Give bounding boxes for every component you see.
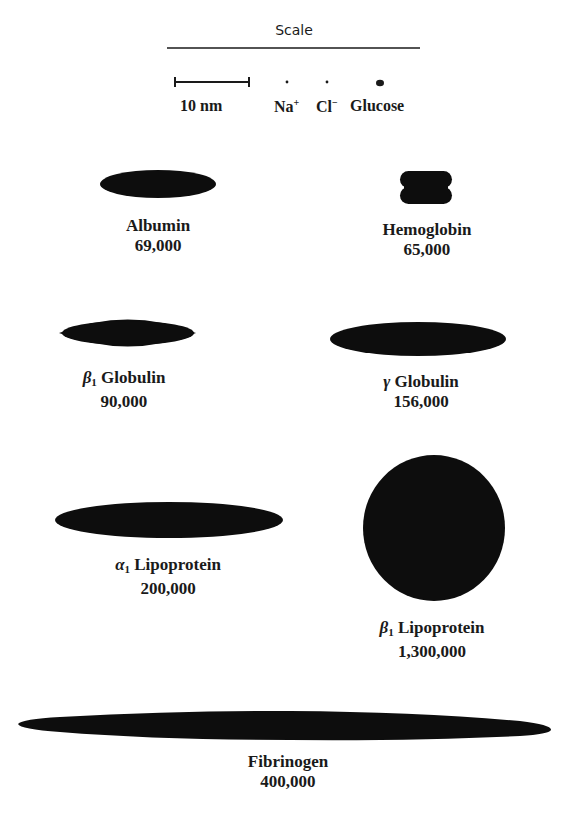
beta1-lipoprotein-shape-icon	[363, 455, 505, 601]
alpha1-lipoprotein-label: α1 Lipoprotein 200,000	[115, 555, 221, 599]
albumin-label: Albumin 69,000	[126, 216, 190, 256]
beta1-globulin-mw: 90,000	[83, 392, 166, 412]
scale-bar-icon	[175, 77, 249, 87]
plasma-protein-size-diagram: Scale 10 nm Na+ Cl− Glucose Albumin 69,0…	[0, 0, 573, 822]
na-ion-label: Na+	[274, 97, 299, 116]
alpha1-lipoprotein-title: α1 Lipoprotein	[115, 555, 221, 579]
cl-ion-charge: −	[332, 97, 338, 108]
beta-symbol: β	[379, 618, 388, 637]
subscript: 1	[125, 563, 131, 575]
alpha1-lipoprotein-shape-icon	[55, 502, 283, 538]
gamma-globulin-title: γ Globulin	[383, 372, 459, 392]
cl-ion-dot-icon	[326, 81, 329, 84]
hemoglobin-label: Hemoglobin 65,000	[383, 220, 472, 260]
fibrinogen-shape-icon	[18, 711, 551, 740]
alpha-symbol: α	[115, 555, 124, 574]
albumin-mw: 69,000	[126, 236, 190, 256]
cl-ion-label: Cl−	[316, 97, 338, 116]
scale-bar-label: 10 nm	[180, 97, 222, 115]
gamma-globulin-name: Globulin	[395, 372, 459, 391]
beta1-lipoprotein-label: β1 Lipoprotein 1,300,000	[379, 618, 484, 662]
gamma-globulin-mw: 156,000	[383, 392, 459, 412]
gamma-globulin-label: γ Globulin 156,000	[383, 372, 459, 412]
beta-symbol: β	[83, 368, 92, 387]
beta1-globulin-label: β1 Globulin 90,000	[83, 368, 166, 412]
gamma-symbol: γ	[383, 372, 390, 391]
fibrinogen-mw: 400,000	[248, 772, 328, 792]
alpha1-lipoprotein-name: Lipoprotein	[134, 555, 221, 574]
subscript: 1	[91, 376, 97, 388]
beta1-lipoprotein-name: Lipoprotein	[398, 618, 485, 637]
na-ion-dot-icon	[286, 81, 289, 84]
glucose-label: Glucose	[350, 97, 404, 115]
beta1-lipoprotein-mw: 1,300,000	[379, 642, 484, 662]
subscript: 1	[388, 626, 394, 638]
beta1-globulin-name: Globulin	[101, 368, 165, 387]
fibrinogen-name: Fibrinogen	[248, 752, 328, 772]
na-ion-name: Na	[274, 98, 294, 115]
hemoglobin-name: Hemoglobin	[383, 220, 472, 240]
beta1-lipoprotein-title: β1 Lipoprotein	[379, 618, 484, 642]
na-ion-charge: +	[294, 97, 300, 108]
alpha1-lipoprotein-mw: 200,000	[115, 579, 221, 599]
glucose-dot-icon	[376, 80, 384, 86]
albumin-name: Albumin	[126, 216, 190, 236]
beta1-globulin-title: β1 Globulin	[83, 368, 166, 392]
albumin-shape-icon	[100, 170, 216, 198]
cl-ion-name: Cl	[316, 98, 332, 115]
fibrinogen-label: Fibrinogen 400,000	[248, 752, 328, 792]
hemoglobin-mw: 65,000	[383, 240, 472, 260]
scale-title: Scale	[275, 22, 313, 38]
gamma-globulin-shape-icon	[330, 322, 506, 356]
hemoglobin-shape-icon	[400, 171, 452, 204]
